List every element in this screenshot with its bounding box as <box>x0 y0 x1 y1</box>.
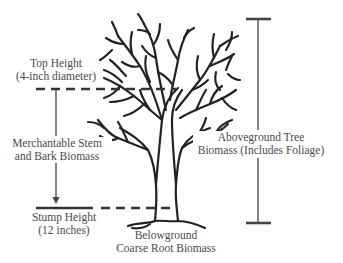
merchantable-label-line2: and Bark Biomass <box>2 150 112 163</box>
merchantable-label-line1: Merchantable Stem <box>2 137 112 150</box>
top-height-label-line2: (4-inch diameter) <box>0 70 112 83</box>
stump-height-label-line1: Stump Height <box>26 211 102 224</box>
stump-height-label: Stump Height (12 inches) <box>26 211 102 237</box>
top-height-label-line1: Top Height <box>0 57 112 70</box>
belowground-label-line2: Coarse Root Biomass <box>110 242 222 255</box>
tree-illustration <box>88 14 240 228</box>
top-height-label: Top Height (4-inch diameter) <box>0 57 112 83</box>
merchantable-label: Merchantable Stem and Bark Biomass <box>2 137 112 163</box>
aboveground-label: Aboveground Tree Biomass (Includes Folia… <box>193 131 329 157</box>
aboveground-label-line1: Aboveground Tree <box>193 131 329 144</box>
stump-height-label-line2: (12 inches) <box>26 224 102 237</box>
belowground-label-line1: Belowground <box>110 229 222 242</box>
aboveground-bracket <box>246 19 271 223</box>
belowground-label: Belowground Coarse Root Biomass <box>110 229 222 255</box>
aboveground-label-line2: Biomass (Includes Foliage) <box>193 144 329 157</box>
